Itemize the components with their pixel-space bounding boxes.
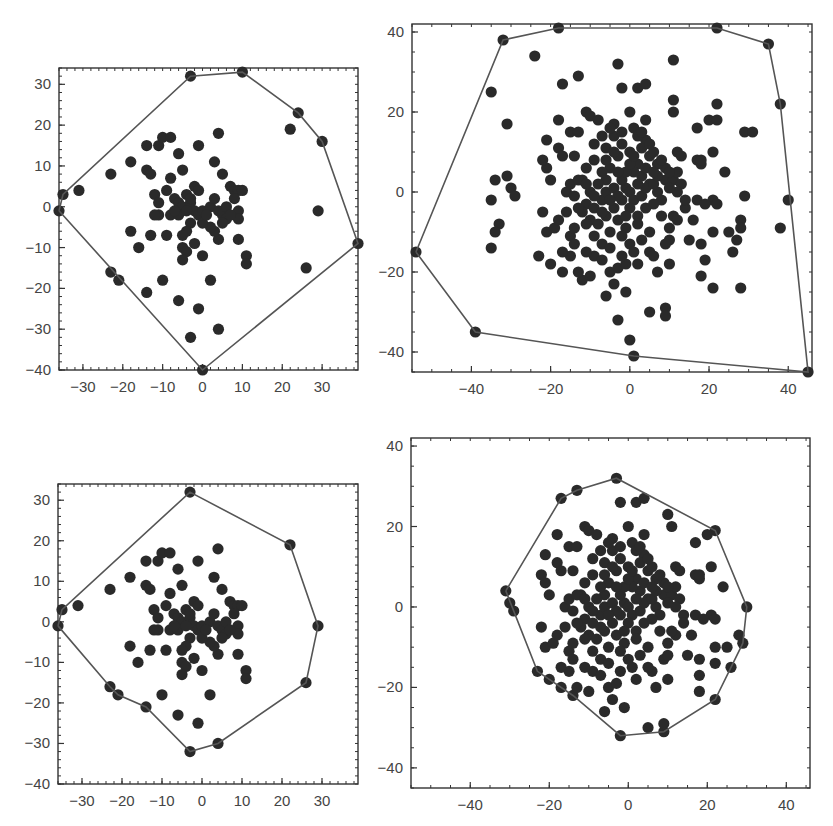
y-tick-label: −40 xyxy=(378,759,403,776)
data-point xyxy=(607,561,618,572)
data-point xyxy=(662,509,673,520)
data-point xyxy=(619,626,630,637)
data-point xyxy=(591,634,602,645)
data-point xyxy=(615,553,626,564)
data-point xyxy=(567,638,578,649)
data-point xyxy=(631,593,642,604)
data-point xyxy=(654,626,665,637)
data-point xyxy=(694,654,705,665)
data-point xyxy=(666,521,677,532)
data-point xyxy=(642,662,653,673)
data-point xyxy=(536,621,547,632)
data-point xyxy=(567,654,578,665)
x-tick-label: −20 xyxy=(537,796,562,813)
data-point xyxy=(583,686,594,697)
data-point xyxy=(662,638,673,649)
x-tick-label: −40 xyxy=(458,796,483,813)
data-point xyxy=(603,642,614,653)
y-tick-label: 40 xyxy=(386,437,403,454)
data-point xyxy=(662,650,673,661)
data-point xyxy=(642,642,653,653)
data-point xyxy=(690,537,701,548)
data-point xyxy=(615,666,626,677)
data-point xyxy=(662,581,673,592)
data-point xyxy=(615,541,626,552)
data-point xyxy=(682,650,693,661)
data-point xyxy=(603,609,614,620)
data-point xyxy=(567,565,578,576)
data-point xyxy=(603,658,614,669)
data-point xyxy=(607,694,618,705)
data-point xyxy=(595,545,606,556)
data-point xyxy=(674,565,685,576)
data-point xyxy=(662,674,673,685)
data-point xyxy=(650,682,661,693)
data-points xyxy=(500,473,752,742)
data-point xyxy=(556,662,567,673)
data-point xyxy=(559,621,570,632)
data-point xyxy=(611,678,622,689)
data-point xyxy=(587,553,598,564)
data-point xyxy=(552,630,563,641)
data-point xyxy=(702,529,713,540)
data-point xyxy=(579,662,590,673)
data-point xyxy=(579,634,590,645)
data-point xyxy=(591,529,602,540)
data-point xyxy=(710,613,721,624)
data-point xyxy=(698,613,709,624)
y-tick-label: −20 xyxy=(378,678,403,695)
data-point xyxy=(595,670,606,681)
data-point xyxy=(666,626,677,637)
data-point xyxy=(631,674,642,685)
data-point xyxy=(536,569,547,580)
data-point xyxy=(595,621,606,632)
data-point xyxy=(615,646,626,657)
y-tick-label: 0 xyxy=(395,598,403,615)
data-point xyxy=(710,658,721,669)
data-point xyxy=(662,597,673,608)
data-point xyxy=(571,682,582,693)
data-point xyxy=(552,529,563,540)
data-point xyxy=(571,617,582,628)
data-point xyxy=(694,670,705,681)
data-point xyxy=(635,650,646,661)
data-point xyxy=(571,541,582,552)
data-point xyxy=(579,577,590,588)
data-point xyxy=(556,565,567,576)
data-point xyxy=(658,718,669,729)
data-point xyxy=(627,565,638,576)
x-tick-label: 40 xyxy=(778,796,795,813)
data-point xyxy=(717,581,728,592)
data-point xyxy=(587,569,598,580)
y-tick-label: 20 xyxy=(386,518,403,535)
plot-canvas: −40−2002040−40−2002040 xyxy=(0,0,833,826)
scatter-panel-bottom-right: −40−2002040−40−2002040 xyxy=(0,0,833,826)
data-point xyxy=(619,702,630,713)
data-point xyxy=(654,569,665,580)
data-point xyxy=(615,497,626,508)
data-point xyxy=(678,617,689,628)
data-point xyxy=(567,605,578,616)
data-point xyxy=(642,722,653,733)
data-point xyxy=(710,642,721,653)
data-point xyxy=(587,646,598,657)
data-point xyxy=(631,634,642,645)
data-point xyxy=(595,581,606,592)
data-point xyxy=(544,589,555,600)
data-point xyxy=(611,581,622,592)
x-tick-label: 0 xyxy=(624,796,632,813)
data-point xyxy=(603,537,614,548)
data-point xyxy=(694,686,705,697)
data-point xyxy=(646,581,657,592)
data-point xyxy=(706,561,717,572)
data-point xyxy=(579,593,590,604)
data-point xyxy=(587,605,598,616)
data-point xyxy=(694,569,705,580)
data-point xyxy=(721,642,732,653)
data-point xyxy=(635,541,646,552)
data-point xyxy=(627,662,638,673)
data-point xyxy=(646,613,657,624)
x-tick-label: 20 xyxy=(699,796,716,813)
data-point xyxy=(540,549,551,560)
data-point xyxy=(591,593,602,604)
